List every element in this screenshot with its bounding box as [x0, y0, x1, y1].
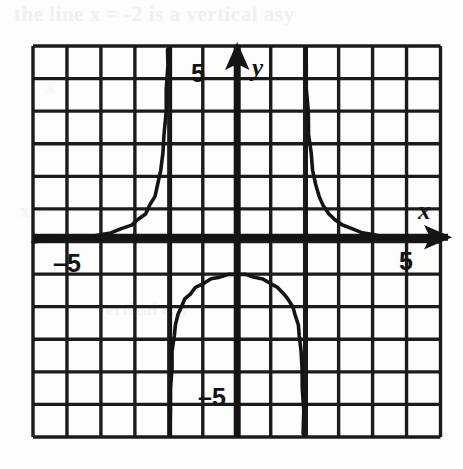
x-axis-label: x	[417, 197, 431, 224]
y-tick-label-positive: 5	[191, 59, 205, 87]
axes	[33, 42, 452, 437]
y-axis-label: y	[249, 54, 264, 81]
scanned-page: the line x = -2 is a vertical asy x x = …	[0, 0, 463, 469]
x-tick-label-positive: 5	[399, 247, 413, 275]
coordinate-plane-graph: y x 5 –5 5 –5	[0, 0, 463, 469]
x-tick-label-negative: –5	[53, 249, 81, 277]
graph-figure: y x 5 –5 5 –5	[0, 0, 463, 469]
y-tick-label-negative: –5	[198, 383, 226, 411]
